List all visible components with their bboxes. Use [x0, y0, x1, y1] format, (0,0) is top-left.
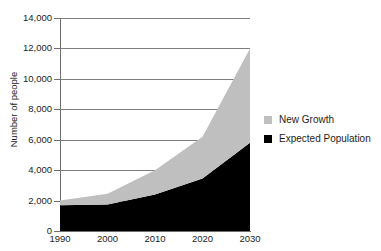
y-axis-tick: [54, 201, 60, 202]
legend-label: New Growth: [279, 115, 334, 125]
stacked-area-series: [60, 18, 250, 231]
x-axis-tick-label: 2000: [97, 234, 118, 244]
cropped-title-remnant: [120, 0, 270, 4]
legend-item-expected-population: Expected Population: [264, 134, 371, 144]
y-axis-tick-label: 14,000: [23, 13, 52, 23]
y-axis-title: Number of people: [8, 45, 19, 175]
x-axis-tick-label: 2020: [192, 234, 213, 244]
legend-item-new-growth: New Growth: [264, 115, 371, 125]
y-axis-tick: [54, 48, 60, 49]
x-axis-tick-label: 1990: [49, 234, 70, 244]
y-axis-tick: [54, 18, 60, 19]
legend-swatch-icon: [264, 135, 272, 143]
legend-label: Expected Population: [279, 134, 371, 144]
legend-swatch-icon: [264, 116, 272, 124]
x-axis-line: [60, 231, 251, 232]
y-axis-tick-label: 4,000: [28, 165, 52, 175]
y-axis-tick-label: 2,000: [28, 196, 52, 206]
y-axis-tick: [54, 170, 60, 171]
y-axis-tick-label: 6,000: [28, 135, 52, 145]
y-axis-tick: [54, 231, 60, 232]
y-axis-tick: [54, 140, 60, 141]
y-axis-tick-label: 12,000: [23, 44, 52, 54]
chart-legend: New Growth Expected Population: [264, 115, 371, 153]
y-axis-tick-label: 10,000: [23, 74, 52, 84]
y-axis-tick: [54, 109, 60, 110]
y-axis-tick: [54, 79, 60, 80]
x-axis-tick-label: 2010: [144, 234, 165, 244]
area-chart: Number of people 02,0004,0006,0008,00010…: [0, 0, 381, 251]
x-axis-tick-label: 2030: [239, 234, 260, 244]
y-axis-tick-label: 8,000: [28, 105, 52, 115]
plot-area: 02,0004,0006,0008,00010,00012,00014,000: [60, 18, 250, 231]
